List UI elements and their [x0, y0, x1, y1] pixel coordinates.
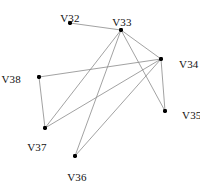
graph-edge-v33-v36 — [75, 30, 121, 156]
edge-layer — [39, 23, 165, 156]
graph-figure: V32V33V34V35V36V37V38 — [0, 0, 200, 185]
graph-node-label-v32: V32 — [60, 13, 80, 24]
graph-edge-v33-v34 — [121, 30, 161, 59]
graph-edge-v33-v35 — [121, 30, 165, 111]
graph-edge-v34-v37 — [45, 59, 161, 128]
graph-node-v38[interactable] — [37, 75, 41, 79]
graph-node-label-v37: V37 — [27, 142, 47, 153]
graph-node-label-v34: V34 — [179, 59, 199, 70]
graph-node-v35[interactable] — [163, 109, 167, 113]
graph-node-label-v38: V38 — [1, 74, 21, 85]
graph-node-v33[interactable] — [119, 28, 123, 32]
graph-node-v36[interactable] — [73, 154, 77, 158]
graph-edge-v33-v37 — [45, 30, 121, 128]
graph-edge-v37-v38 — [39, 77, 45, 128]
graph-node-label-v36: V36 — [67, 172, 87, 183]
graph-canvas — [0, 0, 200, 185]
graph-node-label-v35: V35 — [182, 110, 200, 121]
graph-edge-v34-v36 — [75, 59, 161, 156]
graph-node-v34[interactable] — [159, 57, 163, 61]
graph-edge-v34-v35 — [161, 59, 165, 111]
node-layer — [37, 21, 167, 158]
graph-node-v37[interactable] — [43, 126, 47, 130]
graph-edge-v34-v38 — [39, 59, 161, 77]
graph-node-label-v33: V33 — [112, 17, 132, 28]
